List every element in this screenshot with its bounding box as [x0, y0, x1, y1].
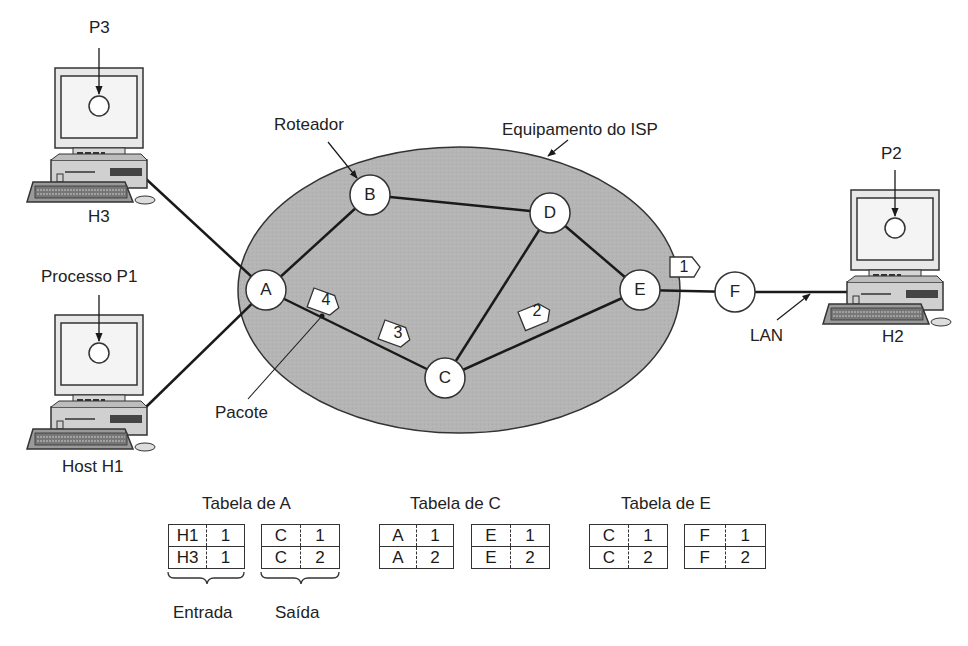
table-row: F2: [685, 546, 765, 568]
host-h2-label: H2: [882, 327, 904, 347]
table-a-title: Tabela de A: [202, 494, 291, 514]
isp-annotation: Equipamento do ISP: [502, 120, 658, 140]
lan-annotation: LAN: [750, 326, 783, 346]
packet-4-label: 4: [316, 291, 336, 309]
router-b-label: B: [351, 185, 389, 205]
table-row: A2: [380, 546, 453, 568]
process-p3-label: P3: [89, 18, 110, 38]
host-h2-computer: [823, 190, 951, 326]
table-e-title: Tabela de E: [621, 494, 711, 514]
process-p1-label: Processo P1: [41, 267, 137, 287]
packet-2-label: 2: [527, 302, 547, 320]
table-row: C1: [590, 525, 667, 546]
table-c-saida: E1 E2: [471, 524, 550, 569]
table-e-entrada: C1 C2: [589, 524, 668, 569]
table-row: C2: [590, 546, 667, 568]
router-a-label: A: [247, 280, 285, 300]
packet-annotation: Pacote: [215, 403, 268, 423]
table-row: E1: [472, 525, 549, 546]
entrada-label: Entrada: [173, 603, 233, 623]
host-h3-computer: [27, 68, 155, 204]
host-h1-label: Host H1: [62, 457, 123, 477]
host-h1-computer: [27, 315, 155, 451]
packet-1-label: 1: [674, 258, 694, 276]
table-row: H11: [169, 525, 244, 546]
table-a-entrada: H11 H31: [168, 524, 245, 569]
packet-3-label: 3: [388, 324, 408, 342]
table-row: F1: [685, 525, 765, 546]
table-row: C1: [262, 525, 339, 546]
process-p2-label: P2: [881, 144, 902, 164]
host-h3-label: H3: [88, 207, 110, 227]
router-c-label: C: [426, 368, 464, 388]
router-f-label: F: [716, 282, 754, 302]
table-row: C2: [262, 546, 339, 568]
table-c-entrada: A1 A2: [379, 524, 454, 569]
router-annotation: Roteador: [274, 115, 344, 135]
saida-label: Saída: [275, 603, 319, 623]
table-row: H31: [169, 546, 244, 568]
table-c-title: Tabela de C: [410, 494, 501, 514]
router-e-label: E: [621, 280, 659, 300]
table-a-saida: C1 C2: [261, 524, 340, 569]
table-row: A1: [380, 525, 453, 546]
router-d-label: D: [531, 203, 569, 223]
table-row: E2: [472, 546, 549, 568]
table-e-saida: F1 F2: [684, 524, 766, 569]
